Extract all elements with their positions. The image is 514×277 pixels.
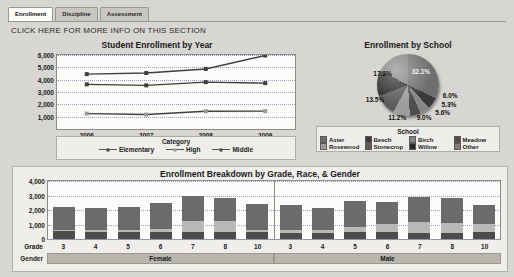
legend-item-high[interactable]: High	[166, 146, 200, 153]
legend-swatch-icon	[320, 143, 327, 150]
pie-legend-item-aster[interactable]: Aster	[320, 136, 363, 143]
bar-segment	[473, 232, 495, 239]
bar-segment	[312, 208, 334, 230]
bar-segment	[53, 231, 75, 239]
pie-legend-item-willow[interactable]: Willow	[409, 143, 452, 150]
stacked-bar[interactable]	[85, 208, 107, 239]
bar-segment	[214, 221, 236, 232]
gender-axis-row: Gender FemaleMale	[13, 253, 501, 264]
gridline	[48, 210, 500, 211]
bar-segment	[344, 201, 366, 227]
legend-item-elementary[interactable]: Elementary	[99, 146, 154, 153]
stacked-bar[interactable]	[280, 205, 302, 239]
pie-legend-item-meadow[interactable]: Meadow	[454, 136, 497, 143]
legend-swatch-icon	[365, 136, 372, 143]
y-tick-label: 3,000	[38, 89, 54, 96]
grade-tick-label: 10	[247, 243, 269, 250]
grade-axis-label: Grade	[13, 243, 47, 250]
gender-band-male: Male	[274, 253, 501, 264]
legend-swatch-icon	[320, 136, 327, 143]
enrollment-by-school-chart: Enrollment by School 32.1%6.0%5.3%5.6%9.…	[310, 40, 506, 162]
tab-discipline[interactable]: Discipline	[55, 7, 97, 21]
legend-swatch-icon	[409, 136, 416, 143]
pie-value-label: 32.1%	[412, 68, 430, 75]
pie-legend-item-rosewood[interactable]: Rosewood	[320, 143, 363, 150]
y-tick-label: 2,000	[38, 101, 54, 108]
pie-chart-legend: School AsterBeechBirchMeadowRosewoodSton…	[316, 126, 500, 152]
bar-segment	[85, 208, 107, 231]
bar-segment	[312, 233, 334, 239]
bar-segment	[280, 205, 302, 230]
grade-tick-label: 6	[376, 243, 398, 250]
gender-band-female: Female	[47, 253, 274, 264]
legend-marker-icon	[220, 149, 223, 152]
dashboard-page: EnrollmentDisciplineAssessment CLICK HER…	[0, 0, 514, 277]
legend-item-middle[interactable]: Middle	[212, 146, 253, 153]
legend-line-icon	[212, 149, 230, 150]
grade-tick-label: 7	[182, 243, 204, 250]
gridline	[48, 196, 500, 197]
bar-segment	[214, 198, 236, 222]
tab-assessment[interactable]: Assessment	[100, 7, 149, 21]
bar-segment	[376, 202, 398, 224]
bar-segment	[441, 233, 463, 239]
bar-segment	[280, 233, 302, 239]
bar-segment	[150, 232, 172, 239]
stacked-bar[interactable]	[150, 203, 172, 239]
grade-labels-male: 34567810	[274, 243, 501, 250]
stacked-bar[interactable]	[312, 208, 334, 239]
tab-enrollment[interactable]: Enrollment	[8, 7, 53, 21]
stacked-bar[interactable]	[53, 207, 75, 239]
bar-segment	[118, 207, 140, 230]
line-chart-title: Student Enrollment by Year	[12, 40, 302, 50]
grade-tick-label: 5	[344, 243, 366, 250]
pie-legend-item-stonecrop[interactable]: Stonecrop	[365, 143, 408, 150]
gridline	[48, 225, 500, 226]
gridline	[48, 181, 500, 182]
stacked-bar[interactable]	[182, 196, 204, 239]
stacked-bar[interactable]	[214, 198, 236, 239]
pie-gloss	[377, 54, 439, 116]
tab-bar: EnrollmentDisciplineAssessment	[8, 6, 506, 22]
legend-label: Middle	[232, 146, 253, 153]
legend-marker-icon	[174, 149, 177, 152]
pie-legend-item-birch[interactable]: Birch	[409, 136, 452, 143]
legend-line-icon	[166, 149, 184, 150]
bar-segment	[182, 221, 204, 232]
stacked-bar[interactable]	[118, 207, 140, 239]
legend-swatch-icon	[454, 143, 461, 150]
info-link[interactable]: CLICK HERE FOR MORE INFO ON THIS SECTION	[11, 26, 206, 35]
stacked-bar[interactable]	[344, 201, 366, 239]
stacked-bar[interactable]	[376, 202, 398, 239]
bar-segment	[441, 223, 463, 233]
stacked-bar[interactable]	[408, 197, 430, 239]
grade-axis-row: Grade 3456781034567810	[13, 241, 501, 252]
pie-value-label: 5.3%	[441, 101, 456, 108]
legend-swatch-icon	[409, 143, 416, 150]
pie-legend-title: School	[317, 128, 499, 135]
gender-axis-label: Gender	[13, 255, 47, 262]
stacked-bar[interactable]	[473, 205, 495, 239]
legend-label: Elementary	[119, 146, 154, 153]
pie-value-label: 6.0%	[443, 92, 458, 99]
bar-segment	[246, 232, 268, 239]
bar-segment	[376, 224, 398, 233]
stacked-bar[interactable]	[246, 204, 268, 239]
legend-swatch-icon	[365, 143, 372, 150]
pie-legend-item-beech[interactable]: Beech	[365, 136, 408, 143]
bar-segment	[344, 232, 366, 239]
pie-legend-item-other[interactable]: Other	[454, 143, 497, 150]
line-series-group	[57, 55, 295, 129]
stacked-bar[interactable]	[441, 198, 463, 239]
legend-swatch-icon	[454, 136, 461, 143]
bar-segment	[85, 232, 107, 239]
pie-legend-label: Birch	[418, 137, 433, 143]
line-legend-title: Category	[57, 138, 295, 145]
grade-tick-label: 3	[279, 243, 301, 250]
grade-tick-label: 5	[117, 243, 139, 250]
y-tick-label: 4,000	[38, 76, 54, 83]
grade-tick-label: 7	[409, 243, 431, 250]
grade-tick-label: 10	[474, 243, 496, 250]
pie-value-label: 9.0%	[417, 114, 432, 121]
bar-segment	[408, 197, 430, 223]
